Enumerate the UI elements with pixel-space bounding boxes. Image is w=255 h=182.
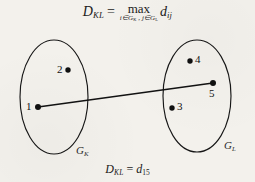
figure-canvas: DKL= max i∈GK , j∈GL dij 2 1 4 5 3 GK GL… [0,0,255,182]
point-1-label: 1 [26,101,32,112]
point-1-dot [35,104,41,110]
cluster-diagram [0,0,255,182]
point-4-label: 4 [195,54,201,65]
cluster-gk-label-symbol: G [76,144,84,156]
point-2-label: 2 [57,64,63,75]
bottom-formula-lhs-subscript: KL [114,168,124,177]
max-distance-line [38,83,213,107]
bottom-formula: DKL=d15 [0,163,255,177]
cluster-gk-label-subscript: K [84,150,89,157]
cluster-gl-label-symbol: G [224,139,232,151]
cluster-gk-ellipse [20,40,88,154]
bottom-formula-lhs-symbol: D [105,162,114,176]
point-5-dot [210,80,216,86]
bottom-formula-rhs-subscript: 15 [142,168,149,177]
point-3-dot [169,105,174,110]
point-2-dot [65,67,70,72]
point-5-label: 5 [209,88,215,99]
point-4-dot [187,58,192,63]
cluster-gl-label: GL [224,140,236,153]
cluster-gl-label-subscript: L [232,145,236,152]
bottom-formula-equals: = [126,162,133,176]
point-3-label: 3 [177,101,183,112]
cluster-gk-label: GK [76,145,89,158]
